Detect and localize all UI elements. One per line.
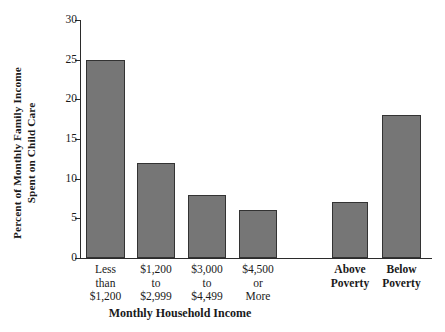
y-axis-title-line-2: Spent on Child Care bbox=[24, 103, 38, 204]
x-category-label: Below Poverty bbox=[368, 263, 435, 290]
y-tick-label: 25 bbox=[66, 54, 78, 66]
x-axis-title: Monthly Household Income bbox=[80, 306, 280, 320]
bar bbox=[239, 210, 277, 258]
bar bbox=[86, 60, 125, 258]
bar bbox=[332, 202, 368, 258]
y-tick-label: 20 bbox=[66, 94, 78, 106]
x-category-label: $4,500 or More bbox=[225, 263, 291, 304]
y-tick-label: 15 bbox=[66, 133, 78, 145]
y-tick-label: 5 bbox=[71, 213, 77, 225]
bar bbox=[188, 195, 226, 258]
bar-chart: Percent of Monthly Family Income Spent o… bbox=[0, 0, 445, 332]
y-tick-label: 30 bbox=[66, 14, 78, 26]
y-axis-title-line-1: Percent of Monthly Family Income bbox=[10, 67, 24, 239]
bar bbox=[382, 115, 421, 258]
plot-area: 051015202530 Less than $1,200$1,200 to $… bbox=[80, 20, 432, 258]
bar bbox=[137, 163, 175, 258]
x-axis-line bbox=[80, 258, 432, 259]
y-tick-label: 10 bbox=[66, 173, 78, 185]
y-axis-title: Percent of Monthly Family Income Spent o… bbox=[1, 33, 47, 273]
